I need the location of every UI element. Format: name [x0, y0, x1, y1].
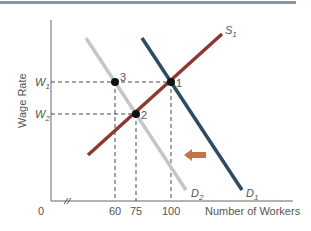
supply-curve-s1	[88, 34, 222, 155]
ytick-w1: W1	[35, 76, 50, 91]
curve-label-d1: D1	[246, 187, 258, 202]
ytick-w2: W2	[35, 108, 50, 123]
labor-market-chart: 1 2 3 S1 D1 D2 W1 W2 Wage Rate 0 60 75 1…	[0, 0, 311, 231]
x-axis-label: Number of Workers	[205, 205, 301, 217]
point-label-3: 3	[120, 71, 126, 83]
xtick-100: 100	[162, 205, 180, 217]
equilibrium-point-1	[167, 78, 175, 86]
point-label-1: 1	[176, 77, 182, 89]
equilibrium-point-2	[132, 110, 140, 118]
curve-label-d2: D2	[191, 187, 204, 202]
xtick-75: 75	[130, 205, 142, 217]
point-label-2: 2	[141, 109, 147, 121]
point-3	[111, 78, 119, 86]
x-origin-label: 0	[38, 205, 44, 217]
y-axis-label: Wage Rate	[16, 73, 28, 128]
xtick-60: 60	[109, 205, 121, 217]
left-shift-arrow-icon	[184, 149, 206, 161]
curve-label-s1: S1	[225, 24, 237, 39]
